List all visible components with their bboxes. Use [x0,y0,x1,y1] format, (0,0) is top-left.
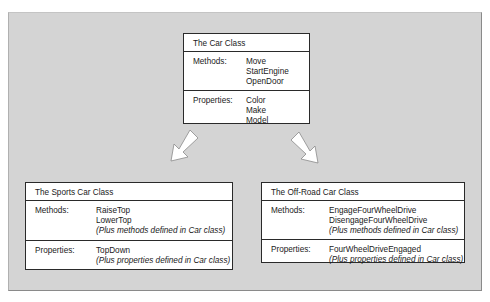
sports-car-properties-label: Properties: [35,246,75,256]
car-property-item: Color [246,96,309,106]
sports-car-method-item: LowerTop [96,216,232,226]
offroad-car-property-item: FourWheelDriveEngaged [329,245,464,255]
car-methods-list: Move StartEngine OpenDoor [246,57,309,87]
car-properties-section: Properties: Color Make Model [184,91,309,130]
inheritance-arrow-right-icon [291,130,331,166]
offroad-car-method-item: DisengageFourWheelDrive [329,216,464,226]
inheritance-arrow-left-icon [168,128,208,164]
car-properties-label: Properties: [193,96,233,106]
sports-car-class-box: The Sports Car Class Methods: RaiseTop L… [25,182,233,270]
car-class-box: The Car Class Methods: Move StartEngine … [183,33,310,124]
offroad-car-methods-label: Methods: [271,206,305,216]
sports-car-methods-list: RaiseTop LowerTop (Plus methods defined … [96,206,232,236]
offroad-car-methods-section: Methods: EngageFourWheelDrive DisengageF… [262,201,464,240]
sports-car-method-item: RaiseTop [96,206,232,216]
offroad-car-class-box: The Off-Road Car Class Methods: EngageFo… [261,182,465,263]
sports-car-properties-section: Properties: TopDown (Plus properties def… [26,241,232,270]
offroad-car-methods-list: EngageFourWheelDrive DisengageFourWheelD… [329,206,464,236]
offroad-car-methods-note: (Plus methods defined in Car class) [329,226,464,236]
car-methods-label: Methods: [193,57,227,67]
car-method-item: StartEngine [246,67,309,77]
sports-car-methods-note: (Plus methods defined in Car class) [96,226,232,236]
sports-car-properties-list: TopDown (Plus properties defined in Car … [96,246,232,266]
offroad-car-properties-section: Properties: FourWheelDriveEngaged (Plus … [262,240,464,269]
sports-car-class-title: The Sports Car Class [26,183,232,201]
car-properties-list: Color Make Model [246,96,309,126]
sports-car-property-item: TopDown [96,246,232,256]
car-property-item: Model [246,116,309,126]
car-method-item: OpenDoor [246,77,309,87]
sports-car-methods-label: Methods: [35,206,69,216]
offroad-car-properties-label: Properties: [271,245,311,255]
car-property-item: Make [246,106,309,116]
offroad-car-properties-list: FourWheelDriveEngaged (Plus properties d… [329,245,464,265]
car-method-item: Move [246,57,309,67]
offroad-car-class-title: The Off-Road Car Class [262,183,464,201]
sports-car-properties-note: (Plus properties defined in Car class) [96,256,232,266]
car-methods-section: Methods: Move StartEngine OpenDoor [184,52,309,91]
offroad-car-properties-note: (Plus properties defined in Car class) [329,255,464,265]
sports-car-methods-section: Methods: RaiseTop LowerTop (Plus methods… [26,201,232,241]
offroad-car-method-item: EngageFourWheelDrive [329,206,464,216]
car-class-title: The Car Class [184,34,309,52]
